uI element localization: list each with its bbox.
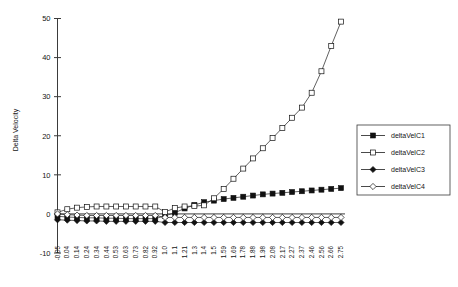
series-line — [58, 220, 342, 223]
data-point — [221, 186, 226, 191]
legend-label: deltaVelC2 — [391, 149, 425, 156]
y-tick-label: 50 — [42, 14, 50, 23]
x-tick-label: 2.66 — [327, 245, 334, 258]
data-point — [191, 214, 197, 220]
x-tick-label: -0.05 — [54, 245, 61, 260]
data-point — [240, 214, 246, 220]
data-point — [309, 214, 315, 220]
data-point — [181, 214, 187, 220]
x-tick-label: 2.37 — [298, 245, 305, 258]
x-tick-label: 2.27 — [288, 245, 295, 258]
x-tick-label: 0.44 — [103, 245, 110, 258]
x-tick-label: 1.1 — [171, 245, 178, 254]
data-point — [251, 156, 256, 161]
data-point — [75, 205, 80, 210]
data-point — [84, 204, 89, 209]
data-point — [221, 197, 226, 202]
data-point — [241, 166, 246, 171]
x-tick-label: 0.92 — [151, 245, 158, 258]
data-point — [319, 187, 324, 192]
data-point — [94, 204, 99, 209]
x-tick-label: 1.4 — [200, 245, 207, 254]
data-point — [65, 207, 70, 212]
data-point — [299, 189, 304, 194]
series-line — [58, 22, 342, 213]
x-tick-label: 2.08 — [269, 245, 276, 258]
data-point — [318, 214, 324, 220]
data-point — [211, 196, 216, 201]
data-point — [339, 186, 344, 191]
data-point — [338, 214, 344, 220]
legend-label: deltaVelC3 — [391, 166, 425, 173]
x-tick-label: 0.24 — [83, 245, 90, 258]
data-point — [201, 214, 207, 220]
data-point — [269, 214, 275, 220]
data-point — [114, 204, 119, 209]
data-point — [251, 193, 256, 198]
data-point — [163, 209, 168, 214]
x-tick-label: 0.14 — [73, 245, 80, 258]
data-point — [289, 214, 295, 220]
data-point — [133, 204, 138, 209]
legend-marker-open-square-icon — [371, 150, 376, 155]
data-point — [319, 69, 324, 74]
x-tick-label: 1.5 — [210, 245, 217, 254]
data-point — [328, 214, 334, 220]
data-point — [250, 214, 256, 220]
y-axis-group: -1001020304050 Delta Velocity — [12, 14, 61, 257]
data-point — [339, 19, 344, 24]
data-point — [231, 195, 236, 200]
x-tick-label: 2.46 — [308, 245, 315, 258]
data-point — [260, 146, 265, 151]
data-point — [143, 204, 148, 209]
delta-velocity-chart: -1001020304050 Delta Velocity -0.050.040… — [0, 0, 458, 287]
y-axis-title: Delta Velocity — [12, 108, 20, 151]
data-point — [280, 190, 285, 195]
x-tick-label: 1.98 — [259, 245, 266, 258]
data-point — [104, 204, 109, 209]
legend-label: deltaVelC4 — [391, 183, 425, 190]
x-tick-label: 0.34 — [93, 245, 100, 258]
data-point — [230, 214, 236, 220]
y-tick-label: 40 — [42, 53, 50, 62]
data-point — [270, 136, 275, 141]
y-tick-label: 10 — [42, 171, 50, 180]
data-point — [123, 204, 128, 209]
data-point — [172, 206, 177, 211]
series-line — [58, 214, 342, 218]
data-point — [309, 90, 314, 95]
data-point — [299, 105, 304, 110]
x-tick-label: 0.04 — [63, 245, 70, 258]
data-point — [309, 188, 314, 193]
y-tick-label: 20 — [42, 132, 50, 141]
data-point — [279, 214, 285, 220]
x-tick-label: 1.69 — [230, 245, 237, 258]
x-tick-label: 1.78 — [239, 245, 246, 258]
x-tick-label: 1.3 — [191, 245, 198, 254]
x-tick-label: 1.59 — [220, 245, 227, 258]
data-point — [270, 191, 275, 196]
legend-item-deltaVelC1[interactable]: deltaVelC1 — [361, 132, 425, 139]
data-point — [221, 214, 227, 220]
x-tick-label: 0.82 — [142, 245, 149, 258]
y-tick-label: 0 — [46, 210, 50, 219]
data-point — [231, 176, 236, 181]
data-point — [280, 125, 285, 130]
y-tick-label: 30 — [42, 92, 50, 101]
x-tick-label: 1.0 — [161, 245, 168, 254]
x-tick-label: 2.17 — [279, 245, 286, 258]
x-tick-label: 2.56 — [318, 245, 325, 258]
legend-item-deltaVelC2[interactable]: deltaVelC2 — [361, 149, 425, 156]
data-point — [241, 194, 246, 199]
series-deltaVelC2 — [55, 19, 344, 215]
x-tick-label: 2.75 — [337, 245, 344, 258]
data-point — [182, 204, 187, 209]
chart-container: -1001020304050 Delta Velocity -0.050.040… — [0, 0, 458, 287]
data-point — [202, 203, 207, 208]
x-tick-label: 1.88 — [249, 245, 256, 258]
data-point — [192, 204, 197, 209]
x-tick-label: 0.73 — [132, 245, 139, 258]
data-point — [153, 204, 158, 209]
chart-legend: deltaVelC1deltaVelC2deltaVelC3deltaVelC4 — [357, 125, 450, 195]
data-point — [290, 115, 295, 120]
